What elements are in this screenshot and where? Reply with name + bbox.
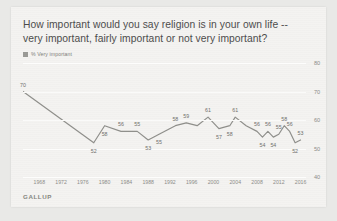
x-axis-tick-label: 2004 [229, 179, 241, 185]
gridlines [23, 63, 306, 177]
y-axis-tick-label: 80 [314, 60, 320, 66]
x-axis-tick-label: 1984 [121, 179, 133, 185]
gridline [23, 92, 306, 93]
page-title: How important would you say religion is … [23, 18, 303, 45]
x-axis-tick-label: 2012 [273, 179, 285, 185]
y-axis-tick-label: 40 [314, 174, 320, 180]
chart-card: How important would you say religion is … [11, 7, 326, 207]
x-axis-tick-label: 1976 [77, 179, 89, 185]
y-axis-tick-label: 70 [314, 89, 320, 95]
source-attribution: GALLUP [23, 193, 52, 200]
legend-label: % Very important [31, 51, 72, 57]
x-axis-tick-label: 1992 [164, 179, 176, 185]
y-axis-labels: 8070605040 [310, 63, 337, 177]
gridline [23, 120, 306, 121]
x-axis-labels: 1968197219761980198419881992199620002004… [23, 179, 306, 191]
x-axis-tick-label: 1988 [142, 179, 154, 185]
x-axis-tick-label: 2016 [295, 179, 307, 185]
chart-legend: % Very important [23, 51, 72, 57]
gridline [23, 63, 306, 64]
x-axis-tick-label: 2000 [208, 179, 220, 185]
x-axis-tick-label: 2008 [251, 179, 263, 185]
y-axis-tick-label: 60 [314, 117, 320, 123]
gridline [23, 177, 306, 178]
gridline [23, 149, 306, 150]
x-axis-tick-label: 1968 [34, 179, 46, 185]
x-axis-tick-label: 1996 [186, 179, 198, 185]
legend-swatch-icon [23, 52, 28, 57]
x-axis-tick-label: 1972 [55, 179, 67, 185]
x-axis-tick-label: 1980 [99, 179, 111, 185]
chart-plot-area: 7052585655535558596157586156545654555856… [23, 63, 306, 177]
y-axis-tick-label: 50 [314, 146, 320, 152]
